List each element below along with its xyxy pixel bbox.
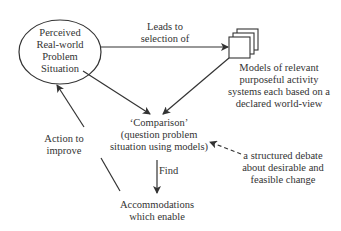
models-stack-icon — [229, 29, 258, 58]
debate-label: a structured debate about desirable and … — [238, 150, 328, 186]
action-to-situation-arrow — [57, 85, 84, 127]
text-line: declared world-view — [218, 98, 340, 110]
text-line: Perceived — [19, 27, 101, 39]
debate-dashed-arrow — [210, 142, 241, 154]
text-line: Problem — [19, 51, 101, 63]
problem-situation-label: Perceived Real-world Problem Situation — [19, 27, 101, 75]
text-line: which enable — [112, 211, 202, 223]
text-line: Situation — [19, 63, 101, 75]
text-line: feasible change — [238, 174, 328, 186]
text-line: Accommodations — [112, 199, 202, 211]
text-line: improve — [36, 145, 92, 157]
text-line: Leads to — [125, 21, 205, 33]
text-line: Find — [159, 165, 178, 176]
find-label: Find — [159, 165, 178, 177]
accommodations-to-action-line — [101, 158, 120, 191]
text-line: situation using models) — [104, 141, 214, 153]
text-line: a structured debate — [238, 150, 328, 162]
text-line: (question problem — [104, 129, 214, 141]
text-line: purposeful activity — [218, 74, 340, 86]
action-label: Action to improve — [36, 133, 92, 157]
text-line: systems each based on a — [218, 86, 340, 98]
text-line: selection of — [125, 33, 205, 45]
text-line: about desirable and — [238, 162, 328, 174]
text-line: Action to — [36, 133, 92, 145]
comparison-label: ‘Comparison’ (question problem situation… — [104, 117, 214, 153]
situation-to-comparison-arrow — [83, 71, 150, 114]
text-line: ‘Comparison’ — [104, 117, 214, 129]
models-label: Models of relevant purposeful activity s… — [218, 62, 340, 110]
text-line: Real-world — [19, 39, 101, 51]
text-line: Models of relevant — [218, 62, 340, 74]
accommodations-label: Accommodations which enable — [112, 199, 202, 223]
leads-to-label: Leads to selection of — [125, 21, 205, 45]
